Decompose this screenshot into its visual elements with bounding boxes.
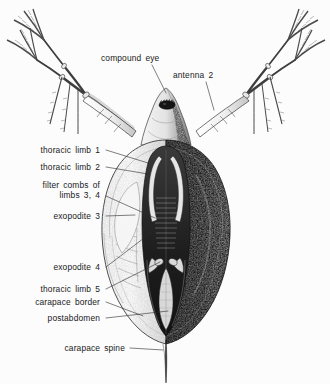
label-filter-combs: filter combs of	[42, 180, 100, 190]
leader-line-antenna-2	[206, 82, 214, 110]
label-thoracic-limb-1: thoracic limb 1	[41, 145, 101, 155]
right-antenna	[196, 9, 325, 137]
label-thoracic-limb-5: thoracic limb 5	[41, 284, 101, 294]
left-antenna	[7, 9, 136, 137]
label-carapace-spine: carapace spine	[64, 343, 125, 353]
leader-line-carapace-spine	[130, 348, 163, 350]
label-postabdomen: postabdomen	[48, 313, 101, 323]
label-compound-eye: compound eye	[101, 53, 160, 63]
left-antenna-base	[83, 94, 136, 138]
daphnia-anatomy-figure: compound eyeantenna 2thoracic limb 1thor…	[0, 0, 330, 384]
head-region	[141, 88, 191, 145]
leader-line-compound-eye	[152, 65, 166, 93]
carapace-spine	[163, 340, 167, 383]
right-antenna-base	[196, 96, 249, 138]
label-exopodite-4: exopodite 4	[53, 262, 100, 272]
label-carapace-border: carapace border	[35, 297, 100, 307]
label-antenna-2: antenna 2	[173, 70, 213, 80]
label-exopodite-3: exopodite 3	[53, 211, 100, 221]
label-filter-combs-2: limbs 3, 4	[59, 190, 100, 200]
label-thoracic-limb-2: thoracic limb 2	[41, 162, 101, 172]
